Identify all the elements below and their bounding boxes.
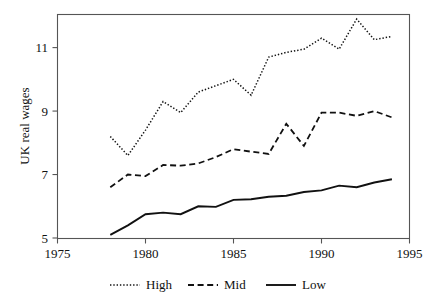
x-tick-label: 1980 (133, 246, 159, 261)
line-chart: 57911 19751980198519901995 UK real wages… (0, 0, 438, 307)
y-tick-label: 5 (42, 231, 49, 246)
x-tick-label: 1995 (397, 246, 423, 261)
chart-container: 57911 19751980198519901995 UK real wages… (0, 0, 438, 307)
y-tick-label: 11 (35, 40, 48, 55)
x-tick-label: 1985 (221, 246, 247, 261)
y-tick-label: 7 (42, 167, 49, 182)
y-tick-label: 9 (42, 104, 49, 119)
legend-label-high: High (146, 277, 173, 292)
legend-label-low: Low (302, 277, 326, 292)
y-axis-label: UK real wages (17, 87, 32, 164)
legend-label-mid: Mid (224, 277, 246, 292)
x-tick-label: 1975 (45, 246, 71, 261)
x-tick-label: 1990 (309, 246, 335, 261)
